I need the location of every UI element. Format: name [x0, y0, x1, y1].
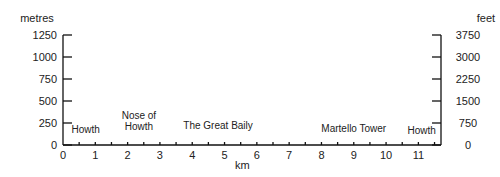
x-tick-label: 8: [318, 149, 324, 161]
x-tick-label: 3: [157, 149, 163, 161]
right-y-tick-label: 3000: [456, 51, 480, 63]
left-y-tick-label: 250: [39, 117, 57, 129]
x-tick-label: 9: [351, 149, 357, 161]
right-y-tick-label: 3750: [456, 29, 480, 41]
place-annotation-line: Howth: [125, 121, 153, 132]
elevation-profile-chart: 0250500750100012500750150022503000375001…: [0, 0, 500, 177]
x-tick-label: 4: [189, 149, 195, 161]
place-annotation: Howth: [71, 124, 99, 135]
right-y-tick-label: 750: [459, 117, 477, 129]
left-y-tick-label: 500: [39, 95, 57, 107]
left-y-tick-label: 1000: [33, 51, 57, 63]
x-tick-label: 7: [286, 149, 292, 161]
x-tick-label: 6: [254, 149, 260, 161]
x-tick-label: 1: [92, 149, 98, 161]
place-annotation: Martello Tower: [321, 123, 387, 134]
place-annotation-line: Martello Tower: [321, 123, 387, 134]
x-axis-title: km: [235, 159, 250, 171]
place-annotation-line: The Great Baily: [183, 120, 252, 131]
x-tick-label: 2: [125, 149, 131, 161]
left-axis-title: metres: [20, 12, 54, 24]
place-annotation: Nose ofHowth: [122, 110, 157, 132]
x-tick-label: 5: [221, 149, 227, 161]
x-tick-label: 0: [60, 149, 66, 161]
right-y-tick-label: 1500: [456, 95, 480, 107]
x-tick-label: 11: [413, 149, 424, 161]
left-y-tick-label: 750: [39, 73, 57, 85]
place-annotation-line: Nose of: [122, 110, 157, 121]
right-y-tick-label: 2250: [456, 73, 480, 85]
place-annotation: The Great Baily: [183, 120, 252, 131]
right-y-tick-label: 0: [465, 139, 471, 151]
right-axis-title: feet: [477, 12, 495, 24]
place-annotation-line: Howth: [407, 125, 435, 136]
left-y-tick-label: 0: [51, 139, 57, 151]
place-annotation: Howth: [407, 125, 435, 136]
left-y-tick-label: 1250: [33, 29, 57, 41]
place-annotation-line: Howth: [71, 124, 99, 135]
x-tick-label: 10: [380, 149, 392, 161]
